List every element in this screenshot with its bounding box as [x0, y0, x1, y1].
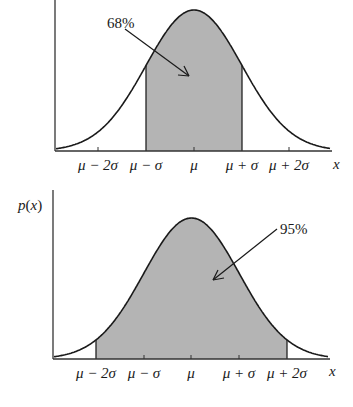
- top-tick-label-mu: μ: [189, 157, 198, 173]
- top-chart: 68% μ − 2σ μ − σ μ μ + σ μ + 2σ x: [55, 0, 340, 173]
- top-tick-label-mu-plus-sigma: μ + σ: [225, 157, 259, 173]
- bottom-annotation-label: 95%: [280, 221, 308, 237]
- top-annotation-label: 68%: [107, 15, 135, 31]
- bottom-x-axis-label: x: [328, 363, 336, 379]
- top-tick-label-mu-minus-2sigma: μ − 2σ: [77, 157, 119, 173]
- bottom-tick-label-mu-minus-sigma: μ − σ: [127, 365, 161, 381]
- bottom-y-axis-label: p(x): [17, 197, 42, 214]
- bottom-tick-label-mu: μ: [186, 365, 195, 381]
- bottom-shaded-area-95: [96, 218, 287, 359]
- top-tick-label-mu-plus-2sigma: μ + 2σ: [268, 157, 310, 173]
- bottom-chart: p(x) 95% μ − 2σ μ − σ μ μ + σ μ + 2σ x: [17, 190, 336, 381]
- top-shaded-area-68: [146, 10, 242, 151]
- figure: 68% μ − 2σ μ − σ μ μ + σ μ + 2σ x p(x) 9…: [0, 0, 353, 407]
- top-x-axis-label: x: [332, 156, 340, 172]
- bottom-tick-label-mu-minus-2sigma: μ − 2σ: [75, 365, 117, 381]
- bottom-tick-label-mu-plus-2sigma: μ + 2σ: [266, 365, 308, 381]
- bottom-tick-label-mu-plus-sigma: μ + σ: [222, 365, 256, 381]
- top-tick-label-mu-minus-sigma: μ − σ: [129, 157, 163, 173]
